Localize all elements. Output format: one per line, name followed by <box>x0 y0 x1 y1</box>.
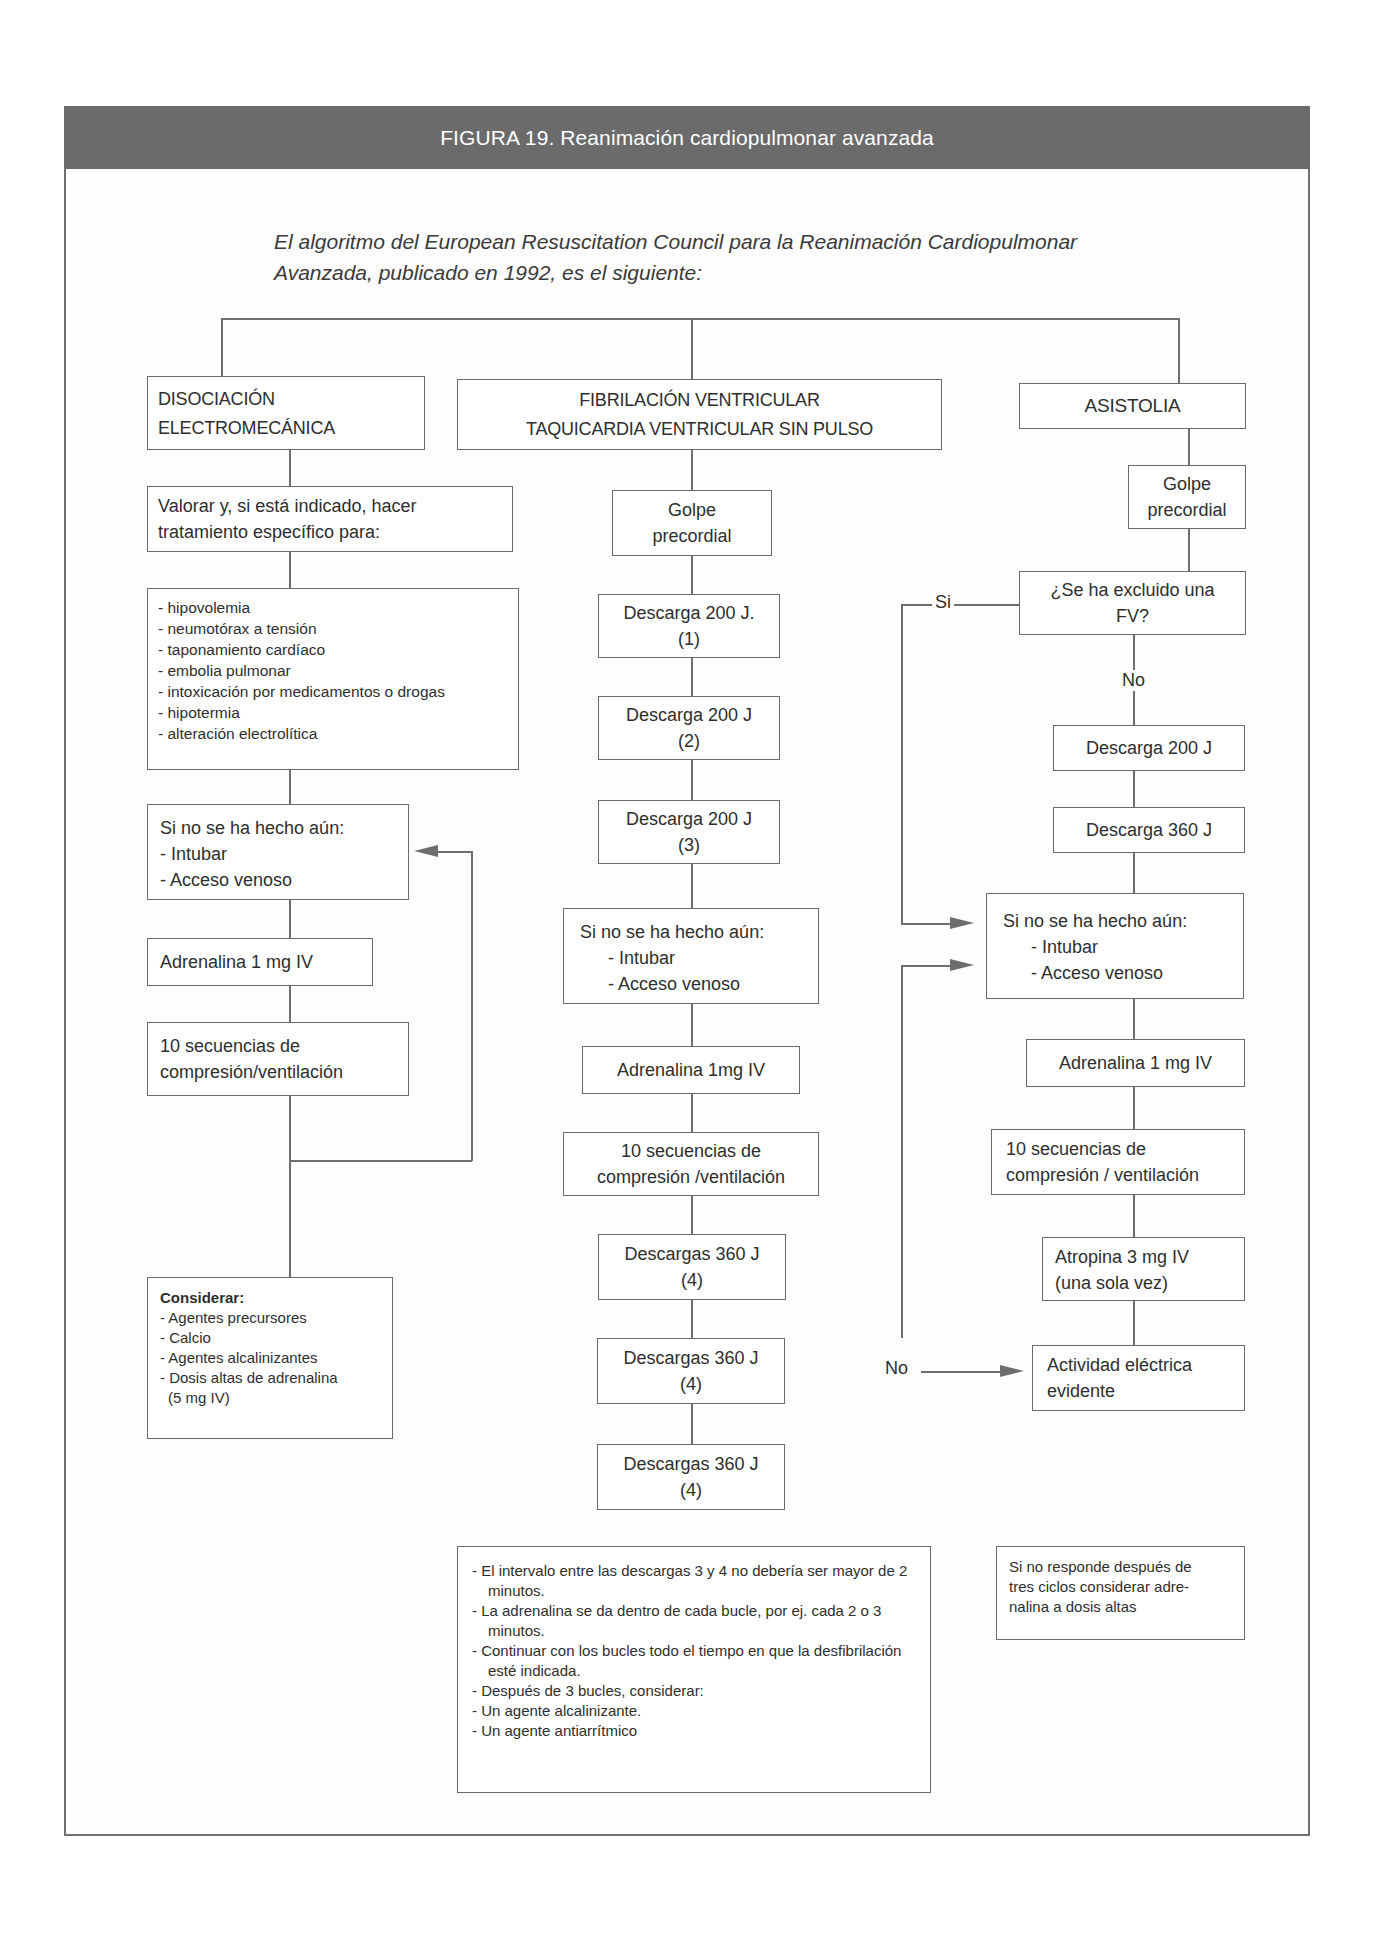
connector <box>691 450 693 490</box>
connector <box>289 1096 291 1277</box>
list-item: - intoxicación por medicamentos o drogas <box>158 681 508 702</box>
no-label: No <box>1119 670 1148 691</box>
connector <box>691 864 693 908</box>
connector <box>1133 1195 1135 1237</box>
note-item: - Un agente alcalinizante. <box>472 1701 912 1721</box>
list-item: - Acceso venoso <box>160 867 396 893</box>
list-item: - Intubar <box>580 945 802 971</box>
intro-line-2: Avanzada, publicado en 1992, es el sigui… <box>274 257 1174 288</box>
list-item: - Agentes alcalinizantes <box>160 1348 380 1368</box>
box-text: 10 secuencias de <box>160 1033 396 1059</box>
box-text: Golpe <box>613 497 771 523</box>
notes-box-right: Si no responde después de tres ciclos co… <box>996 1546 1245 1640</box>
box-text: Descarga 200 J. <box>599 600 779 626</box>
connector <box>691 318 693 379</box>
box-text: TAQUICARDIA VENTRICULAR SIN PULSO <box>458 415 941 444</box>
connector <box>289 900 291 938</box>
list-item: - Intubar <box>160 841 396 867</box>
box-text: Descargas 360 J <box>598 1451 784 1477</box>
box-text: Descarga 200 J <box>599 702 779 728</box>
arrow-right-icon <box>950 917 974 929</box>
connector <box>1133 999 1135 1039</box>
note-item: - Continuar con los bucles todo el tiemp… <box>472 1641 912 1681</box>
box-text: DISOCIACIÓN <box>158 385 414 414</box>
box-text: (4) <box>598 1371 784 1397</box>
box-text: compresión/ventilación <box>160 1059 396 1085</box>
list-item: - embolia pulmonar <box>158 660 508 681</box>
arrow-left-icon <box>414 845 438 857</box>
connector <box>691 556 693 594</box>
box-text: Golpe <box>1129 471 1245 497</box>
box-golpe-precordial-right: Golpe precordial <box>1128 465 1246 529</box>
loop-line <box>432 851 472 853</box>
box-if-not-done-right: Si no se ha hecho aún: - Intubar - Acces… <box>986 893 1244 999</box>
notes-box-middle: - El intervalo entre las descargas 3 y 4… <box>457 1546 931 1793</box>
box-electrical-activity: Actividad eléctrica evidente <box>1032 1345 1245 1411</box>
box-text: ¿Se ha excluido una <box>1020 577 1245 603</box>
connector <box>1188 529 1190 571</box>
box-text: (4) <box>599 1267 785 1293</box>
box-text: precordial <box>613 523 771 549</box>
yes-label: Si <box>932 592 954 613</box>
note-item: - Un agente antiarrítmico <box>472 1721 912 1741</box>
box-if-not-done-mid: Si no se ha hecho aún: - Intubar - Acces… <box>563 908 819 1004</box>
box-text: 10 secuencias de <box>564 1138 818 1164</box>
box-text: Actividad eléctrica <box>1047 1352 1230 1378</box>
list-item: - Acceso venoso <box>580 971 802 997</box>
list-item: - hipovolemia <box>158 597 508 618</box>
no-loop-line <box>901 965 951 967</box>
box-shock-1: Descarga 200 J. (1) <box>598 594 780 658</box>
connector <box>289 552 291 588</box>
note-item: - Después de 3 bucles, considerar: <box>472 1681 912 1701</box>
connector <box>1133 1087 1135 1129</box>
box-fibrilacion-ventricular: FIBRILACIÓN VENTRICULAR TAQUICARDIA VENT… <box>457 379 942 450</box>
intro-line-1: El algoritmo del European Resuscitation … <box>274 226 1174 257</box>
note-text: tres ciclos considerar adre- <box>1009 1577 1232 1597</box>
box-disociacion-electromecanica: DISOCIACIÓN ELECTROMECÁNICA <box>147 376 425 450</box>
connector <box>691 1404 693 1444</box>
connector <box>289 986 291 1022</box>
connector <box>691 1094 693 1132</box>
box-shock-360-b: Descargas 360 J (4) <box>597 1338 785 1404</box>
list-item: - Calcio <box>160 1328 380 1348</box>
connector <box>691 1196 693 1234</box>
box-shock-360-right: Descarga 360 J <box>1053 807 1245 853</box>
box-golpe-precordial-mid: Golpe precordial <box>612 490 772 556</box>
list-item: - Intubar <box>1003 934 1227 960</box>
note-item: - El intervalo entre las descargas 3 y 4… <box>472 1561 912 1601</box>
box-cpr-mid: 10 secuencias de compresión /ventilación <box>563 1132 819 1196</box>
box-shock-360-c: Descargas 360 J (4) <box>597 1444 785 1510</box>
box-text: (2) <box>599 728 779 754</box>
box-shock-200-right: Descarga 200 J <box>1053 725 1245 771</box>
box-asistolia: ASISTOLIA <box>1019 383 1246 429</box>
connector <box>1133 771 1135 807</box>
list-item: - hipotermia <box>158 702 508 723</box>
box-cpr-right: 10 secuencias de compresión / ventilació… <box>991 1129 1245 1195</box>
box-text: precordial <box>1129 497 1245 523</box>
box-text: compresión /ventilación <box>564 1164 818 1190</box>
box-text: (1) <box>599 626 779 652</box>
box-text: evidente <box>1047 1378 1230 1404</box>
no-loop-label: No <box>882 1358 911 1379</box>
box-shock-3: Descarga 200 J (3) <box>598 800 780 864</box>
box-shock-2: Descarga 200 J (2) <box>598 696 780 760</box>
list-item: - alteración electrolítica <box>158 723 508 744</box>
list-item: - Agentes precursores <box>160 1308 380 1328</box>
connector <box>289 450 291 486</box>
note-item: - La adrenalina se da dentro de cada buc… <box>472 1601 912 1641</box>
box-text: 10 secuencias de <box>1006 1136 1230 1162</box>
box-adrenaline-right: Adrenalina 1 mg IV <box>1026 1039 1245 1087</box>
box-text: Atropina 3 mg IV <box>1055 1244 1232 1270</box>
box-text: Descargas 360 J <box>599 1241 785 1267</box>
list-item: - taponamiento cardíaco <box>158 639 508 660</box>
box-text: FIBRILACIÓN VENTRICULAR <box>458 386 941 415</box>
connector <box>691 760 693 800</box>
box-causes-list: - hipovolemia - neumotórax a tensión - t… <box>147 588 519 770</box>
no-loop-line <box>901 965 903 1338</box>
yes-line <box>901 923 951 925</box>
connector <box>691 658 693 696</box>
box-assess: Valorar y, si está indicado, hacer trata… <box>147 486 513 552</box>
note-text: Si no responde después de <box>1009 1557 1232 1577</box>
connector <box>691 1004 693 1046</box>
list-item: - neumotórax a tensión <box>158 618 508 639</box>
